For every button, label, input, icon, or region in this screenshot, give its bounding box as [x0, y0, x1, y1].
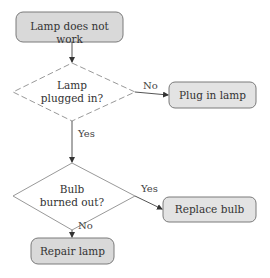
q1-label-line1: Lamp	[32, 79, 112, 92]
q1-label-line2: plugged in?	[32, 92, 112, 105]
q2-label-line1: Bulb	[32, 183, 112, 196]
repair-label: Repair lamp	[31, 245, 114, 258]
edge-label-yes-q2: Yes	[78, 128, 95, 139]
q2-label-line2: burned out?	[32, 196, 112, 209]
plug-label: Plug in lamp	[169, 89, 256, 102]
edge-label-yes-replace: Yes	[141, 183, 158, 194]
start-label: Lamp does not work	[16, 20, 123, 46]
edge-label-no-plug: No	[143, 80, 158, 91]
edge-label-no-repair: No	[78, 220, 93, 231]
replace-label: Replace bulb	[163, 203, 256, 216]
